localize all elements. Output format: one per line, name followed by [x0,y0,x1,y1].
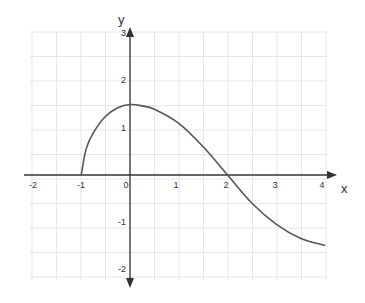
grid [30,32,327,280]
y-tick-label: 3 [121,28,126,38]
y-axis-label: y [118,12,125,27]
x-tick-label: 1 [173,180,178,190]
x-tick-labels: -2-101234 [29,180,325,190]
x-tick-label: 0 [123,180,128,190]
y-tick-labels: 321-1-2 [118,28,126,274]
x-tick-label: 2 [223,180,228,190]
x-axis-label: x [341,181,348,196]
x-axis-arrow-icon [327,171,337,179]
x-tick-label: -1 [77,180,85,190]
x-tick-label: 4 [319,180,324,190]
x-tick-label: 3 [272,180,277,190]
function-graph: x y -2-101234 321-1-2 [0,0,365,303]
y-axis-down-arrow-icon [126,278,134,288]
y-tick-label: -2 [118,264,126,274]
y-tick-label: -1 [118,217,126,227]
y-tick-label: 2 [121,75,126,85]
y-tick-label: 1 [121,123,126,133]
x-tick-label: -2 [29,180,37,190]
